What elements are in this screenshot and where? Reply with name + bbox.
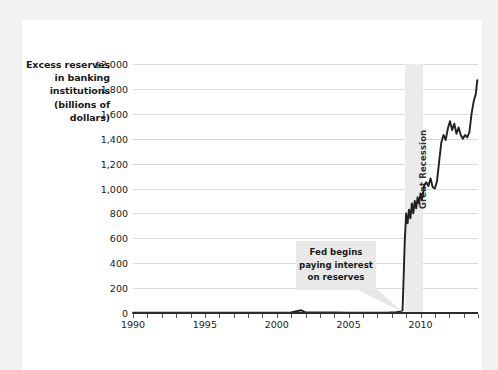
x-tick-1992 (162, 314, 163, 318)
y-tick-0: 0 (68, 308, 128, 319)
callout-line-1: paying interest (299, 259, 373, 272)
y-tick-200: 200 (68, 283, 128, 294)
x-label-2000: 2000 (265, 319, 289, 330)
x-tick-1993 (176, 314, 177, 318)
x-label-2010: 2010 (408, 319, 432, 330)
x-tick-2011 (435, 314, 436, 318)
y-tick-800: 800 (68, 208, 128, 219)
y-tick-labels: 02004006008001,0001,2001,4001,6001,800$2… (66, 64, 128, 313)
x-label-1990: 1990 (121, 319, 145, 330)
x-tick-1995 (205, 314, 206, 318)
x-tick-1997 (234, 314, 235, 318)
y-tick-1600: 1,600 (68, 108, 128, 119)
y-tick-1000: 1,000 (68, 183, 128, 194)
x-tick-1999 (262, 314, 263, 318)
x-tick-2002 (306, 314, 307, 318)
callout-line-0: Fed begins (299, 246, 373, 259)
x-tick-1991 (147, 314, 148, 318)
callout-fed-pays-interest: Fed beginspaying intereston reserves (296, 241, 376, 290)
x-tick-2003 (320, 314, 321, 318)
x-tick-1994 (191, 314, 192, 318)
y-tick-1400: 1,400 (68, 133, 128, 144)
x-tick-1990 (133, 314, 134, 318)
x-tick-1998 (248, 314, 249, 318)
y-tick-600: 600 (68, 233, 128, 244)
x-tick-2001 (291, 314, 292, 318)
x-tick-2013 (464, 314, 465, 318)
x-tick-2000 (277, 314, 278, 318)
x-tick-2014 (478, 314, 479, 318)
x-tick-1996 (219, 314, 220, 318)
y-tick-1800: 1,800 (68, 83, 128, 94)
y-tick-1200: 1,200 (68, 158, 128, 169)
callout-line-2: on reserves (299, 271, 373, 284)
x-tick-2004 (334, 314, 335, 318)
y-tick-2000: $2,000 (68, 59, 128, 70)
y-tick-400: 400 (68, 258, 128, 269)
x-label-1995: 1995 (193, 319, 217, 330)
x-tick-2012 (449, 314, 450, 318)
figure-root: Excess reservesin bankinginstitutions(bi… (0, 0, 498, 370)
x-label-2005: 2005 (337, 319, 361, 330)
